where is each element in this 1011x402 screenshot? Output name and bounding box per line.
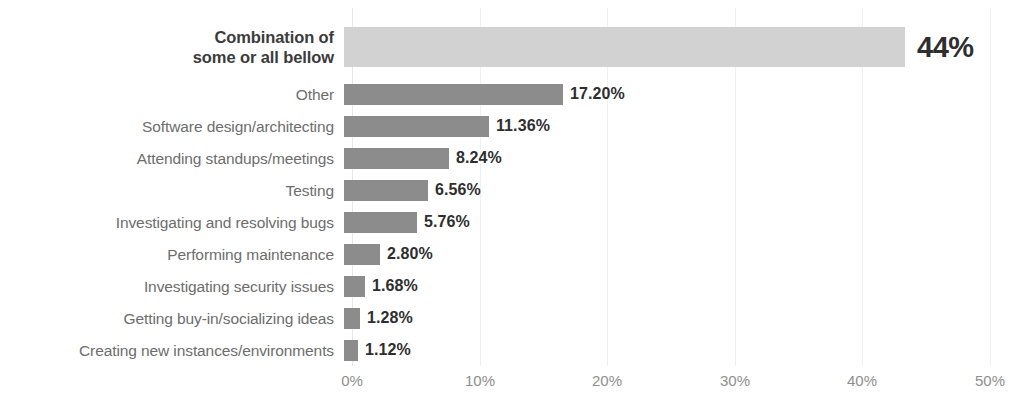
bar[interactable]	[344, 84, 563, 105]
bar-value-label: 1.12%	[365, 341, 411, 359]
category-label: Creating new instances/environments	[0, 341, 344, 360]
x-axis: 0%10%20%30%40%50%	[352, 372, 990, 398]
bar-row: Performing maintenance2.80%	[0, 238, 1011, 270]
bar[interactable]	[344, 27, 905, 67]
bar[interactable]	[344, 276, 365, 297]
bar-row: Testing6.56%	[0, 174, 1011, 206]
bar-rows: Combination of some or all bellow44%Othe…	[0, 0, 1011, 366]
bar-container: 6.56%	[344, 174, 1011, 206]
category-label: Performing maintenance	[0, 245, 344, 264]
bar-container: 11.36%	[344, 110, 1011, 142]
bar-row: Creating new instances/environments1.12%	[0, 334, 1011, 366]
category-label: Combination of some or all bellow	[0, 27, 344, 67]
bar[interactable]	[344, 308, 360, 329]
bar-value-label: 44%	[917, 31, 974, 64]
bar[interactable]	[344, 116, 489, 137]
category-label: Getting buy-in/socializing ideas	[0, 309, 344, 328]
bar-container: 44%	[344, 18, 1011, 76]
bar-value-label: 1.68%	[372, 277, 418, 295]
bar-row: Other17.20%	[0, 78, 1011, 110]
category-label: Attending standups/meetings	[0, 149, 344, 168]
x-tick-label: 50%	[975, 372, 1005, 389]
bar[interactable]	[344, 244, 380, 265]
bar-value-label: 6.56%	[435, 181, 481, 199]
bar-value-label: 17.20%	[570, 85, 625, 103]
bar-container: 2.80%	[344, 238, 1011, 270]
bar-row: Combination of some or all bellow44%	[0, 18, 1011, 76]
bar-row: Investigating security issues1.68%	[0, 270, 1011, 302]
bar-value-label: 11.36%	[496, 117, 550, 135]
bar-row: Getting buy-in/socializing ideas1.28%	[0, 302, 1011, 334]
bar-row: Investigating and resolving bugs5.76%	[0, 206, 1011, 238]
bar-value-label: 8.24%	[456, 149, 502, 167]
bar-row: Software design/architecting11.36%	[0, 110, 1011, 142]
category-label: Testing	[0, 181, 344, 200]
x-tick-label: 30%	[720, 372, 750, 389]
category-label: Software design/architecting	[0, 117, 344, 136]
bar-chart: Combination of some or all bellow44%Othe…	[0, 0, 1011, 402]
x-tick-label: 10%	[465, 372, 495, 389]
category-label: Investigating and resolving bugs	[0, 213, 344, 232]
bar[interactable]	[344, 212, 417, 233]
bar-row: Attending standups/meetings8.24%	[0, 142, 1011, 174]
bar-container: 5.76%	[344, 206, 1011, 238]
bar-value-label: 2.80%	[387, 245, 433, 263]
x-tick-label: 20%	[592, 372, 622, 389]
bar-container: 1.28%	[344, 302, 1011, 334]
x-tick-label: 0%	[341, 372, 363, 389]
bar-container: 17.20%	[344, 78, 1011, 110]
bar[interactable]	[344, 180, 428, 201]
bar-container: 8.24%	[344, 142, 1011, 174]
bar[interactable]	[344, 340, 358, 361]
bar-container: 1.12%	[344, 334, 1011, 366]
bar-container: 1.68%	[344, 270, 1011, 302]
bar-value-label: 5.76%	[424, 213, 470, 231]
bar[interactable]	[344, 148, 449, 169]
category-label: Other	[0, 85, 344, 104]
category-label: Investigating security issues	[0, 277, 344, 296]
bar-value-label: 1.28%	[367, 309, 413, 327]
x-tick-label: 40%	[847, 372, 877, 389]
